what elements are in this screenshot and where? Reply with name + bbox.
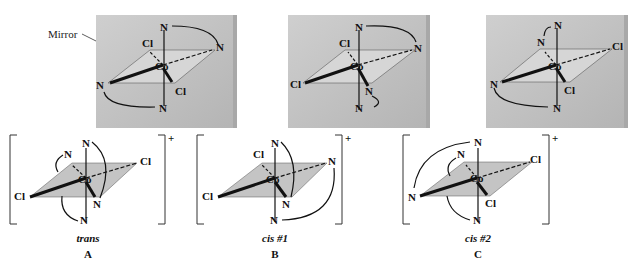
isomer-figure: Mirror N Cl N Co N Cl N N Cl N Co <box>0 0 638 267</box>
atom-n: N <box>474 136 482 148</box>
atom-co: Co <box>78 173 92 185</box>
isomer-name: cis #1 <box>262 232 288 244</box>
atom-cl: Cl <box>142 37 153 49</box>
atom-cl: Cl <box>290 78 301 90</box>
bracket-left <box>10 135 17 224</box>
atom-n: N <box>457 148 465 160</box>
atom-n: N <box>365 85 373 97</box>
atom-cl: Cl <box>253 148 264 160</box>
bracket-right <box>335 135 342 224</box>
atom-n: N <box>270 214 278 226</box>
atom-n: N <box>216 41 224 53</box>
bracket-left <box>197 135 204 224</box>
bracket-right <box>158 135 165 224</box>
isomer-letter: A <box>84 248 92 260</box>
charge-sign: + <box>168 132 174 144</box>
atom-n: N <box>82 137 90 149</box>
atom-n: N <box>96 79 104 91</box>
isomer-letter: B <box>271 248 279 260</box>
isomer-c-cis-2: + N N Cl Co N Cl N cis #2 C <box>403 132 558 260</box>
isomer-letter: C <box>474 248 482 260</box>
bracket-left <box>403 135 410 224</box>
isomer-b-cis-1: + N Cl N Co Cl N N cis #1 B <box>197 132 351 260</box>
atom-n: N <box>271 137 279 149</box>
charge-sign: + <box>552 132 558 144</box>
atom-n: N <box>64 148 72 160</box>
atom-n: N <box>355 102 363 114</box>
atom-n: N <box>490 78 498 90</box>
atom-n: N <box>408 191 416 203</box>
atom-cl: Cl <box>140 155 151 167</box>
isomer-name: cis #2 <box>465 232 491 244</box>
atom-n: N <box>355 21 363 33</box>
atom-cl: Cl <box>485 197 496 209</box>
atom-cl: Cl <box>202 190 213 202</box>
atom-n: N <box>553 102 561 114</box>
mirror-label: Mirror <box>48 28 78 40</box>
atom-n: N <box>328 155 336 167</box>
atom-n: N <box>473 214 481 226</box>
atom-n: N <box>80 214 88 226</box>
atom-co: Co <box>266 173 280 185</box>
atom-cl: Cl <box>564 84 575 96</box>
atom-cl: Cl <box>175 85 186 97</box>
isomer-a-trans: + N N Cl Co Cl N N trans A <box>10 132 174 260</box>
mirror-image-a: N Cl N Co N Cl N <box>96 15 237 128</box>
atom-co: Co <box>350 60 364 72</box>
isomer-name: trans <box>76 232 99 244</box>
atom-cl: Cl <box>612 40 623 52</box>
atom-co: Co <box>548 60 562 72</box>
atom-cl: Cl <box>339 37 350 49</box>
atom-n: N <box>282 198 290 210</box>
atom-co: Co <box>470 172 484 184</box>
atom-n: N <box>93 198 101 210</box>
mirror-image-b: N Cl N Co Cl N N <box>288 15 430 128</box>
atom-n: N <box>160 21 168 33</box>
charge-sign: + <box>345 132 351 144</box>
mirror-image-c: N N Cl Co N Cl N <box>486 15 628 128</box>
atom-n: N <box>414 42 422 54</box>
atom-n: N <box>554 19 562 31</box>
atom-co: Co <box>155 60 169 72</box>
atom-n: N <box>159 102 167 114</box>
atom-cl: Cl <box>14 190 25 202</box>
atom-cl: Cl <box>530 153 541 165</box>
bracket-right <box>542 135 549 224</box>
atom-n: N <box>537 36 545 48</box>
